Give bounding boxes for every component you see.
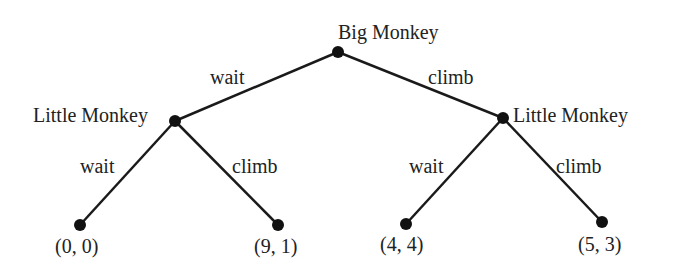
node-right [497,112,509,124]
payoff-2: (9, 1) [254,236,297,256]
leaf-3 [400,218,412,230]
edge-root-climb [338,52,503,118]
leaf-2 [272,219,284,231]
edge-label-root-wait: wait [210,67,244,87]
node-left [169,115,181,127]
edge-label-right-climb: climb [556,156,602,176]
leaf-1 [74,219,86,231]
edge-label-root-climb: climb [428,67,474,87]
edge-root-wait [175,52,338,121]
payoff-1: (0, 0) [55,236,98,256]
edge-label-left-wait: wait [80,156,114,176]
node-label-root: Big Monkey [338,22,439,42]
leaf-4 [596,216,608,228]
node-label-right: Little Monkey [513,105,628,125]
node-root [332,46,344,58]
edge-label-left-climb: climb [232,156,278,176]
node-label-left: Little Monkey [33,105,148,125]
payoff-4: (5, 3) [578,234,621,254]
edge-label-right-wait: wait [409,156,443,176]
payoff-3: (4, 4) [380,234,423,254]
